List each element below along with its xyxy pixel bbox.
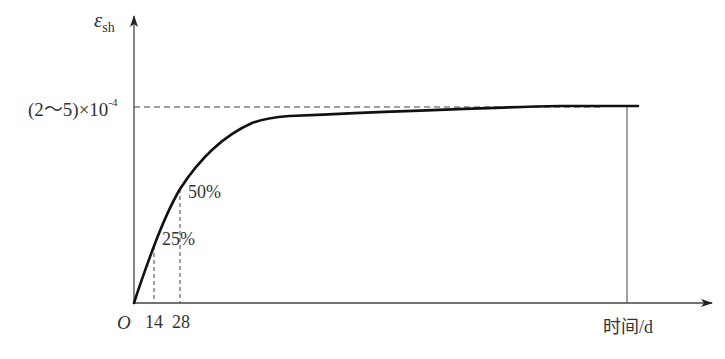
y-tick-label: (2～5)×10-4 <box>28 94 118 121</box>
x-tick-28: 28 <box>172 312 190 333</box>
origin-label: O <box>117 312 131 334</box>
shrinkage-curve <box>134 106 638 303</box>
x-axis-label: 时间/d <box>603 312 653 338</box>
annotation-50-percent: 50% <box>188 182 221 203</box>
y-axis-label: εsh <box>94 8 115 36</box>
chart-canvas <box>0 0 725 359</box>
annotation-25-percent: 25% <box>162 229 195 250</box>
x-tick-14: 14 <box>145 312 163 333</box>
